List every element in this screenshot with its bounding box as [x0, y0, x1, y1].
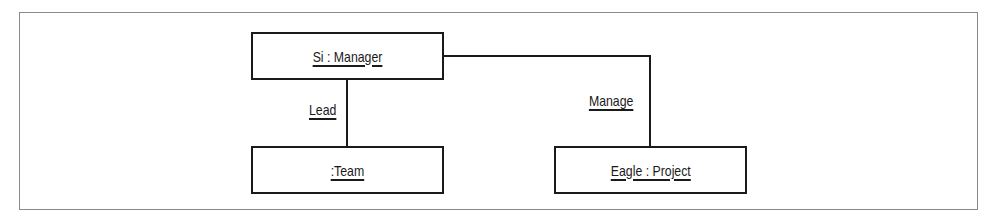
lead-link-label: Lead: [309, 101, 336, 118]
object-eagle-project[interactable]: Eagle : Project: [554, 146, 747, 194]
manage-link-label: Manage: [589, 92, 633, 109]
object-label: Eagle : Project: [610, 162, 690, 179]
link-lines: [0, 0, 993, 219]
object-label: Si : Manager: [313, 48, 383, 65]
object-team[interactable]: :Team: [251, 146, 444, 194]
object-label: :Team: [331, 162, 365, 179]
object-si-manager[interactable]: Si : Manager: [251, 32, 444, 80]
